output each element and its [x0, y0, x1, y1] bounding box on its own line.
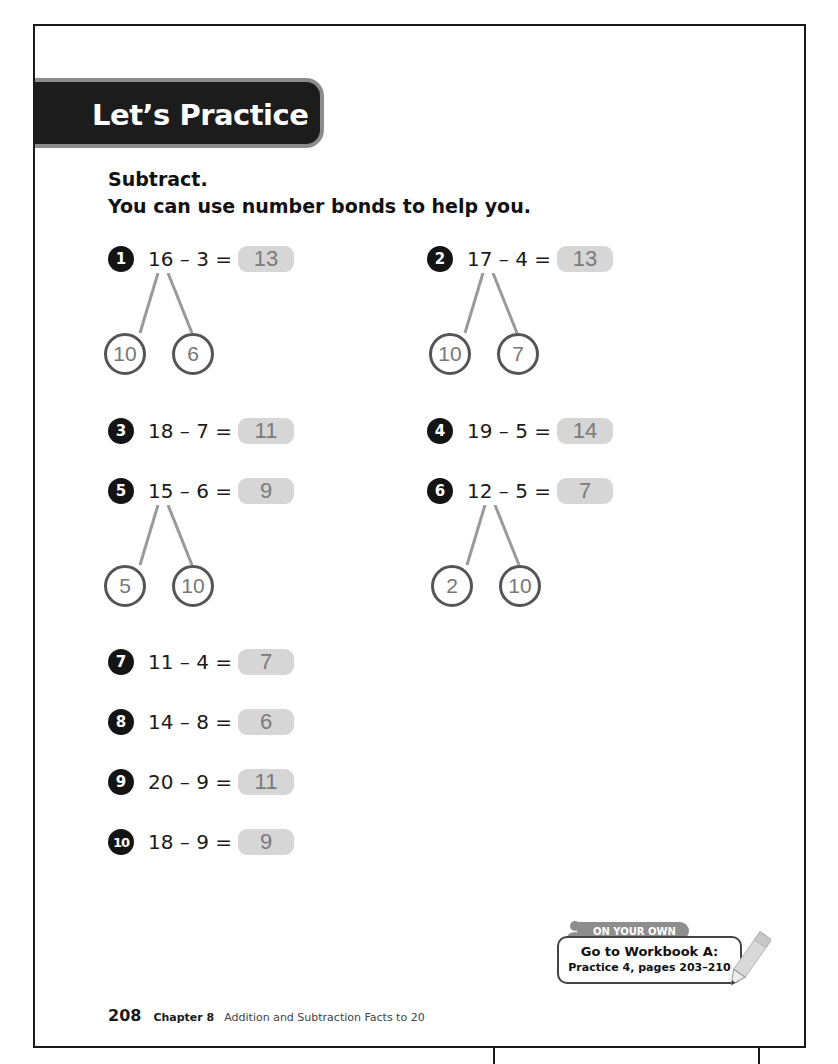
chapter-title: Addition and Subtraction Facts to 20 [224, 1011, 424, 1024]
bond-part-right: 10 [172, 565, 214, 607]
number-badge: 6 [427, 478, 453, 504]
number-badge: 8 [108, 709, 134, 735]
problem-expression: 12 – 5 = [467, 479, 551, 503]
answer-box[interactable]: 9 [238, 829, 294, 855]
problem-5: 5 15 – 6 = 9 [108, 475, 294, 507]
number-bond-2: 10 7 [429, 273, 549, 393]
bond-part-left: 10 [429, 333, 471, 375]
bond-part-left: 5 [104, 565, 146, 607]
number-badge: 3 [108, 418, 134, 444]
page-footer: 208 Chapter 8 Addition and Subtraction F… [108, 1006, 425, 1025]
problem-2: 2 17 – 4 = 13 [427, 243, 613, 275]
number-badge: 2 [427, 246, 453, 272]
number-bond-5: 5 10 [104, 505, 224, 625]
page-title: Let’s Practice [92, 98, 308, 132]
answer-box[interactable]: 13 [557, 246, 613, 272]
problem-4: 4 19 – 5 = 14 [427, 415, 613, 447]
answer-box[interactable]: 7 [557, 478, 613, 504]
answer-box[interactable]: 14 [557, 418, 613, 444]
number-badge: 4 [427, 418, 453, 444]
workbook-reference: Go to Workbook A: Practice 4, pages 203–… [557, 936, 742, 984]
number-bond-6: 2 10 [431, 505, 551, 625]
workbook-line: Go to Workbook A: [559, 944, 740, 959]
problem-expression: 18 – 9 = [148, 830, 232, 854]
page-edge-tick [758, 1048, 760, 1064]
number-badge: 9 [108, 769, 134, 795]
number-badge: 5 [108, 478, 134, 504]
problem-expression: 14 – 8 = [148, 710, 232, 734]
problem-expression: 15 – 6 = [148, 479, 232, 503]
instruction-subtract: Subtract. [108, 168, 208, 190]
problem-3: 3 18 – 7 = 11 [108, 415, 294, 447]
answer-box[interactable]: 9 [238, 478, 294, 504]
number-bond-1: 10 6 [104, 273, 224, 393]
number-badge: 7 [108, 649, 134, 675]
page-number: 208 [108, 1006, 141, 1025]
answer-box[interactable]: 11 [238, 418, 294, 444]
problem-7: 7 11 – 4 = 7 [108, 646, 294, 678]
answer-box[interactable]: 13 [238, 246, 294, 272]
problem-expression: 20 – 9 = [148, 770, 232, 794]
problem-expression: 17 – 4 = [467, 247, 551, 271]
problem-expression: 19 – 5 = [467, 419, 551, 443]
number-badge: 1 [108, 246, 134, 272]
page-edge-tick [493, 1048, 495, 1064]
problem-10: 10 18 – 9 = 9 [108, 826, 294, 858]
bond-part-right: 6 [172, 333, 214, 375]
answer-box[interactable]: 6 [238, 709, 294, 735]
answer-box[interactable]: 7 [238, 649, 294, 675]
answer-box[interactable]: 11 [238, 769, 294, 795]
bond-part-left: 10 [104, 333, 146, 375]
problem-expression: 11 – 4 = [148, 650, 232, 674]
bond-part-right: 10 [499, 565, 541, 607]
number-badge: 10 [108, 829, 134, 855]
bond-part-right: 7 [497, 333, 539, 375]
problem-expression: 18 – 7 = [148, 419, 232, 443]
chapter-label: Chapter 8 [153, 1011, 214, 1024]
problem-6: 6 12 – 5 = 7 [427, 475, 613, 507]
pencil-icon [725, 928, 771, 994]
bond-part-left: 2 [431, 565, 473, 607]
problem-8: 8 14 – 8 = 6 [108, 706, 294, 738]
problem-1: 1 16 – 3 = 13 [108, 243, 294, 275]
instruction-number-bonds: You can use number bonds to help you. [108, 195, 531, 217]
problem-expression: 16 – 3 = [148, 247, 232, 271]
practice-pages-line: Practice 4, pages 203–210 [559, 961, 740, 974]
problem-9: 9 20 – 9 = 11 [108, 766, 294, 798]
